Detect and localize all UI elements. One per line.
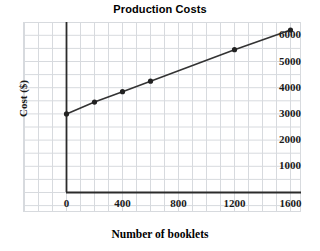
data-series-layer — [23, 22, 301, 212]
data-point — [148, 79, 153, 84]
x-tick-label: 0 — [42, 198, 92, 209]
x-tick-label: 400 — [98, 198, 148, 209]
chart-figure: Production Costs 10002000300040005000600… — [0, 0, 320, 251]
y-axis-title: Cost ($) — [17, 80, 29, 117]
data-point — [232, 47, 237, 52]
x-tick-label: 1200 — [210, 198, 260, 209]
x-tick-label: 1600 — [266, 198, 316, 209]
y-tick-label: 4000 — [261, 82, 302, 93]
data-point — [92, 100, 97, 105]
data-point — [64, 111, 69, 116]
y-tick-label: 3000 — [261, 108, 302, 119]
y-tick-label: 5000 — [261, 56, 302, 67]
y-tick-label: 6000 — [261, 29, 302, 40]
y-tick-label: 2000 — [261, 134, 302, 145]
chart-title: Production Costs — [0, 3, 320, 15]
y-tick-label: 1000 — [261, 160, 302, 171]
data-point — [120, 89, 125, 94]
x-axis-title: Number of booklets — [0, 228, 320, 240]
plot-area: 100020003000400050006000 040080012001600… — [23, 22, 301, 212]
line-series — [67, 30, 291, 114]
x-tick-label: 800 — [154, 198, 204, 209]
